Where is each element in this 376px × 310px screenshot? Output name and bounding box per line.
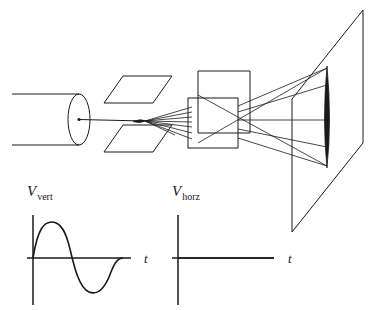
v-vert-label: Vvert: [27, 183, 53, 202]
ray-up-2: [145, 112, 192, 121]
ray-dn-2: [145, 121, 192, 133]
crt-diagram-svg: Vvert Vhorz t t: [0, 0, 376, 310]
deflection-plate-upper: [104, 76, 172, 103]
plot-v-horz: [172, 215, 274, 305]
lens-box: [188, 98, 238, 148]
phosphor-screen: [292, 10, 363, 232]
crt-diagram-figure: Vvert Vhorz t t: [0, 0, 376, 310]
rear-box-outline: [198, 71, 250, 133]
projection-rays: [198, 68, 327, 166]
plot-v-vert: [27, 215, 131, 305]
screen-trace-vertical-line: [325, 66, 330, 168]
electron-gun: [12, 94, 90, 145]
deflection-plates: [104, 76, 172, 152]
v-vert-label-sub: vert: [37, 191, 53, 202]
crossover-point: [133, 120, 146, 123]
screen-ray-4: [238, 129, 327, 147]
beam-crossover-fan: [133, 107, 192, 139]
rear-housing-box: [198, 71, 250, 133]
screen-ray-2: [238, 85, 327, 112]
screen-ray-1: [238, 68, 327, 106]
screen-ray-5: [238, 138, 327, 166]
lens-box-outline: [188, 98, 238, 148]
v-vert-x-axis-label: t: [144, 251, 148, 266]
v-horz-x-axis-label: t: [288, 251, 292, 266]
v-horz-label: Vhorz: [172, 183, 201, 202]
v-horz-label-sub: horz: [182, 191, 200, 202]
